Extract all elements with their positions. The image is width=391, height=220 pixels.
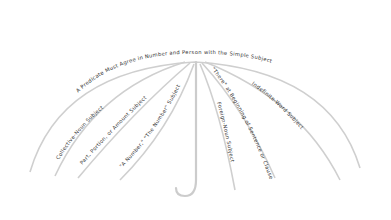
rib-label-a-number: "A Number," "The Number" Subject [118,83,181,169]
umbrella-diagram: A Predicate Must Agree in Number and Per… [0,0,391,220]
rib-foreign-noun [200,64,235,190]
diagram-title: A Predicate Must Agree in Number and Per… [75,49,273,94]
rib-label-foreign-noun: Foreign-Noun Subject [216,101,236,163]
rib-label-part-portion: Part, Portion, or Amount Subject [78,94,147,165]
rib-label-collective-noun: Collective-Noun Subject [55,104,105,160]
